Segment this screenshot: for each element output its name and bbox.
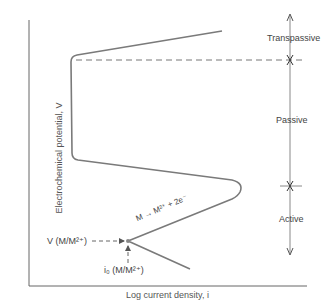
equilibrium-point: [126, 239, 130, 243]
polarization-curve: [71, 31, 241, 269]
region-label-passive: Passive: [276, 116, 308, 125]
diagram-canvas: [0, 0, 326, 304]
region-label-active: Active: [279, 215, 304, 224]
region-label-transpassive: Transpassive: [267, 34, 320, 43]
exchange-current-label: i₀ (M/M²⁺): [104, 266, 144, 275]
y-axis-label: Electrochemical potential, V: [54, 102, 64, 213]
equilibrium-potential-label: V (M/M²⁺): [47, 237, 87, 246]
x-axis-label: Log current density, i: [126, 291, 209, 300]
